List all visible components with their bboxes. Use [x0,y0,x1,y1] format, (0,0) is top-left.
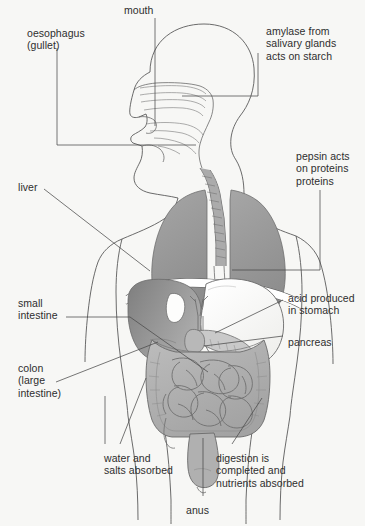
label-mouth: mouth [124,4,153,16]
anatomy-illustration [0,0,365,526]
leader-colon [56,342,158,382]
digestive-system-diagram: mouth oesophagus (gullet) amylase from s… [0,0,365,526]
label-oesophagus: oesophagus (gullet) [27,27,85,52]
label-small-intestine: small intestine [18,297,58,322]
gall-bladder [166,293,185,322]
label-pancreas: pancreas [288,336,332,348]
leader-amylase [182,53,258,96]
label-water-salts: water and salts absorbed [104,452,173,477]
label-digestion: digestion is completed and nutrients abs… [216,452,304,489]
leader-oesophagus [57,48,196,145]
label-liver: liver [18,181,38,193]
leader-liver [44,189,150,271]
label-acid: acid produced in stomach [288,292,355,317]
label-colon: colon (large intestine) [18,362,61,399]
label-anus: anus [186,504,209,516]
leader-water-salts-a [120,378,146,444]
label-amylase: amylase from salivary glands acts on sta… [266,25,336,62]
label-pepsin: pepsin acts on proteins proteins [296,150,350,187]
